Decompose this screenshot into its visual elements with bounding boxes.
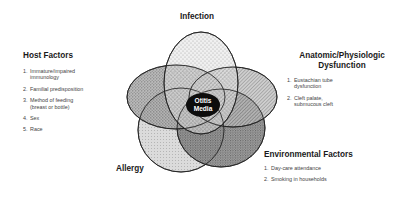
host-factors-block: Host Factors 1.Immature/impaired immunol… — [23, 51, 83, 138]
allergy-label: Allergy — [116, 164, 144, 173]
environmental-title: Environmental Factors — [264, 150, 353, 159]
anatomic-item: 1.Eustachian tube dysfunction — [287, 77, 333, 90]
host-factor-item: 1.Immature/impaired immunology — [23, 68, 83, 81]
center-label-line2: Media — [194, 105, 213, 112]
anatomic-item: 2.Cleft palate, submucous cleft — [287, 95, 333, 108]
host-factor-item: 3.Method of feeding (breast or bottle) — [23, 97, 83, 110]
host-factor-item: 2.Familial predisposition — [23, 86, 83, 92]
anatomic-title: Anatomic/Physiologic Dysfunction — [292, 51, 392, 70]
otitis-media-center: Otitis Media — [186, 93, 220, 117]
host-factors-list: 1.Immature/impaired immunology 2.Familia… — [23, 68, 83, 133]
environmental-block: Environmental Factors 1.Day-care attenda… — [264, 150, 353, 188]
anatomic-block: Anatomic/Physiologic Dysfunction — [292, 51, 392, 70]
host-factor-item: 4.Sex — [23, 115, 83, 121]
environmental-item: 2.Smoking in households — [264, 176, 353, 182]
environmental-list: 1.Day-care attendance 2.Smoking in house… — [264, 165, 353, 183]
anatomic-list: 1.Eustachian tube dysfunction 2.Cleft pa… — [287, 77, 333, 113]
set-infection — [164, 32, 238, 134]
center-label-line1: Otitis — [195, 97, 212, 104]
infection-label: Infection — [180, 12, 214, 21]
host-factors-title: Host Factors — [23, 51, 83, 60]
host-factor-item: 5.Race — [23, 126, 83, 132]
environmental-item: 1.Day-care attendance — [264, 165, 353, 171]
